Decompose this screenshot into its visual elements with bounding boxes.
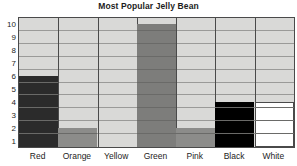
category-separator [98,18,99,147]
bar-pink [176,128,215,147]
chart-page: Most Popular Jelly Bean 12345678910 RedO… [0,0,297,166]
y-axis: 12345678910 [0,17,16,148]
x-axis: RedOrangeYellowGreenPinkBlackWhite [18,149,295,164]
y-tick-label: 10 [0,21,16,29]
x-tick-label-yellow: Yellow [97,150,136,162]
y-tick-label: 9 [0,34,16,42]
y-tick-label: 1 [0,138,16,146]
chart-title: Most Popular Jelly Bean [0,1,297,12]
y-tick-label: 6 [0,73,16,81]
x-tick-label-pink: Pink [175,150,214,162]
x-tick-label-orange: Orange [57,150,96,162]
bar-black [215,102,254,147]
y-tick-label: 8 [0,47,16,55]
y-tick-label: 4 [0,99,16,107]
x-tick-label-red: Red [18,150,57,162]
bar-white [255,102,294,147]
bar-green [137,24,176,147]
x-tick-label-green: Green [136,150,175,162]
bar-red [19,76,58,147]
plot-area [18,17,295,148]
y-tick-label: 5 [0,86,16,94]
bar-orange [58,128,97,147]
y-tick-label: 2 [0,125,16,133]
x-tick-label-white: White [254,150,293,162]
y-tick-label: 3 [0,112,16,120]
x-tick-label-black: Black [214,150,253,162]
y-tick-label: 7 [0,60,16,68]
